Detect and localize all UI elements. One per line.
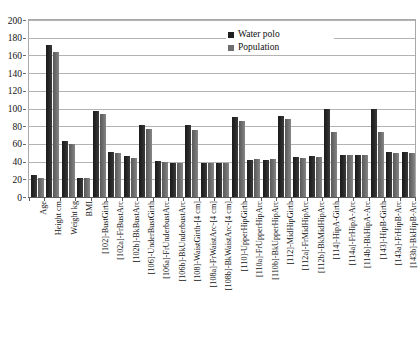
y-tick-label: 20 — [13, 176, 23, 186]
y-axis: 020406080100120140160180200 — [0, 19, 26, 198]
y-tick-mark — [23, 162, 26, 163]
y-tick-mark — [23, 55, 26, 56]
y-tick-label: 140 — [8, 69, 22, 79]
x-tick-label: [108b]-BkWaistArc-[4 cm] — [225, 112, 233, 201]
x-tick-label: [114a]-FrHipA-Arc — [349, 137, 357, 201]
y-tick-mark — [23, 179, 26, 180]
x-tick-label: [110]-UpperHipGirth — [241, 131, 249, 201]
x-tick-label: [143b]-BkHipB-Arc — [410, 134, 418, 201]
y-tick-mark — [23, 38, 26, 39]
legend-item-water-polo: Water polo — [228, 28, 332, 41]
legend-item-population: Population — [228, 41, 332, 54]
y-tick-mark — [23, 197, 26, 198]
x-tick-label: [143]-HipB-Girth — [380, 143, 388, 201]
x-tick-label: [143a]-FrHipB-Arc — [395, 137, 403, 201]
legend-label: Population — [238, 43, 279, 53]
x-tick-label: BMI — [86, 186, 94, 201]
x-tick-label: [110a]-FrUpperHipArc — [256, 125, 264, 201]
bar — [31, 175, 37, 197]
x-tick-label: [102a]-FrBustArc — [117, 142, 125, 201]
x-tick-label: [106b]-BkUnderbustArc — [179, 121, 187, 202]
y-tick-mark — [23, 144, 26, 145]
x-tick-label: [106a]-FrUnderbustArc — [163, 123, 171, 201]
y-tick-mark — [23, 73, 26, 74]
legend-swatch-icon — [228, 32, 234, 38]
y-tick-label: 60 — [13, 140, 23, 150]
y-tick-mark — [23, 20, 26, 21]
x-tick-label: [108]-WaistGirth-[4 cm] — [194, 120, 202, 201]
y-tick-mark — [23, 91, 26, 92]
x-tick-label: Age — [40, 187, 48, 201]
x-tick-label: [114b]-BkHipA-Arc — [364, 134, 372, 201]
legend-label: Water polo — [238, 30, 280, 40]
x-tick-label: [112]-MidHipGirth — [287, 138, 295, 201]
chart-legend: Water polo Population — [226, 27, 334, 55]
y-tick-mark — [23, 109, 26, 110]
bar-group — [29, 20, 44, 197]
x-tick-label: [102]-BustGirth — [102, 148, 110, 201]
y-tick-mark — [23, 126, 26, 127]
x-tick-label: [112a]-FrMidHipArc — [302, 132, 310, 201]
y-tick-label: 40 — [13, 158, 23, 168]
y-tick-label: 180 — [8, 34, 22, 44]
legend-swatch-icon — [228, 45, 234, 51]
y-tick-label: 100 — [8, 105, 22, 115]
y-tick-label: 0 — [17, 193, 22, 203]
x-tick-label: [112b]-BkMidHipArc — [318, 129, 326, 201]
bar-chart: 020406080100120140160180200 AgeHeight cm… — [0, 0, 420, 337]
y-tick-label: 80 — [13, 122, 23, 132]
y-tick-label: 200 — [8, 16, 22, 26]
x-tick-label: Height cm — [55, 167, 63, 201]
x-tick-label: [108a]-FrWaistArc-[4 cm] — [210, 115, 218, 201]
x-tick-label: [106]-UnderBustGirth — [148, 128, 156, 201]
bar — [93, 111, 99, 197]
x-tick-label: [114]-HipA-Girth — [333, 143, 341, 201]
x-tick-label: Weight kg — [71, 167, 79, 201]
bar — [46, 45, 52, 197]
x-tick-label: [110b]-BkUpperHipArc — [272, 122, 280, 201]
x-axis-labels: AgeHeight cmWeight kgBMI[102]-BustGirth[… — [29, 201, 415, 311]
y-tick-label: 120 — [8, 87, 22, 97]
y-tick-label: 160 — [8, 52, 22, 62]
x-tick-label: [102b]-BkBustArc — [133, 140, 141, 201]
